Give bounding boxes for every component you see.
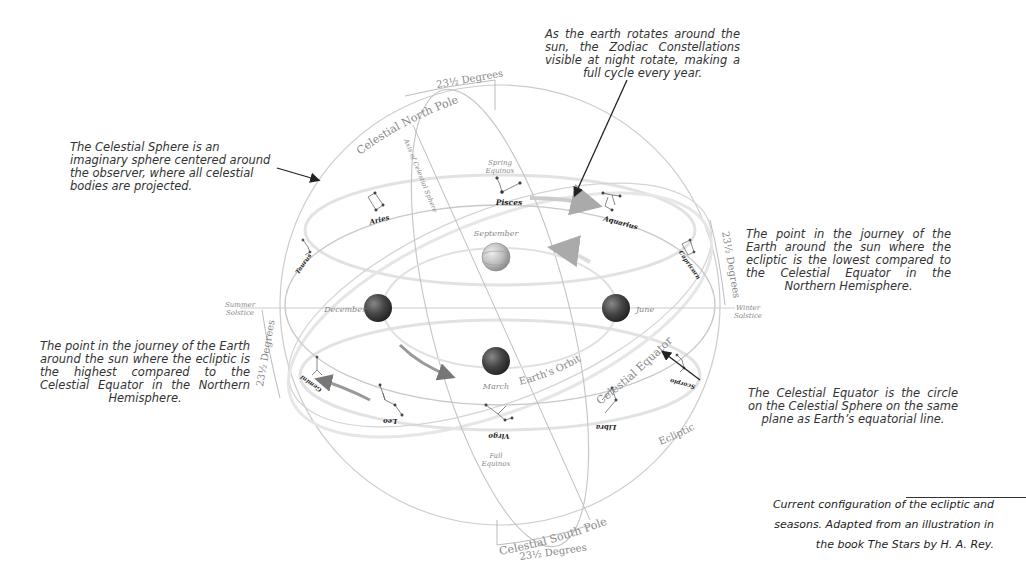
note-winter-solstice: The point in the journey of the Earth ar… xyxy=(746,228,951,293)
label-taurus: Taurus xyxy=(293,252,312,275)
label-tilt-right: 23½ Degrees xyxy=(720,230,743,299)
caption-line-2: seasons. Adapted from an illustration in xyxy=(744,515,994,535)
label-march: March xyxy=(482,382,509,391)
label-virgo: Virgo xyxy=(488,432,510,441)
earth-june xyxy=(602,294,630,322)
label-capricorn: Capricorn xyxy=(677,249,703,281)
label-axis: Axis of Celestial Sphere xyxy=(402,137,439,214)
note-celestial-equator: The Celestial Equator is the circle on t… xyxy=(748,387,958,426)
label-september: September xyxy=(474,229,520,238)
note-zodiac-rotation: As the earth rotates around the sun, the… xyxy=(545,28,740,80)
figure-caption: Current configuration of the ecliptic an… xyxy=(744,495,994,555)
constellation-aries xyxy=(368,192,384,211)
pointer-sphere xyxy=(277,168,318,180)
label-ecliptic: Ecliptic xyxy=(657,421,697,447)
label-spring-2: Equinox xyxy=(484,167,514,175)
label-june: June xyxy=(634,305,655,314)
earth-march xyxy=(482,347,510,375)
note-summer-solstice: The point in the journey of the Earth ar… xyxy=(40,340,250,405)
caption-line-1: Current configuration of the ecliptic an… xyxy=(744,495,994,515)
constellation-gemini xyxy=(312,356,322,375)
label-leo: Leo xyxy=(383,417,398,426)
label-aquarius: Aquarius xyxy=(601,213,638,231)
earth-december xyxy=(364,294,392,322)
label-summer-2: Solstice xyxy=(226,309,254,317)
earth-september xyxy=(482,243,510,271)
label-spring-1: Spring xyxy=(488,159,512,167)
label-libra: Libra xyxy=(595,423,617,432)
label-tilt-left: 23½ Degrees xyxy=(254,319,277,388)
label-winter-2: Solstice xyxy=(734,312,762,320)
label-scorpio: Scorpio xyxy=(669,377,696,391)
label-earth-orbit: Earth's Orbit xyxy=(518,353,583,387)
caption-line-3: the book The Stars by H. A. Rey. xyxy=(744,535,994,555)
pointer-equator xyxy=(663,352,700,380)
label-aries: Aries xyxy=(367,213,390,227)
constellation-pisces xyxy=(496,177,522,194)
label-december: December xyxy=(323,305,367,314)
label-fall-2: Equinox xyxy=(480,460,510,468)
label-fall-1: Fall xyxy=(488,452,502,460)
label-pisces: Pisces xyxy=(495,198,523,207)
pointer-zodiac xyxy=(575,80,627,195)
note-celestial-sphere: The Celestial Sphere is an imaginary sph… xyxy=(70,141,275,193)
label-summer-1: Summer xyxy=(225,301,256,309)
label-winter-1: Winter xyxy=(736,304,761,312)
